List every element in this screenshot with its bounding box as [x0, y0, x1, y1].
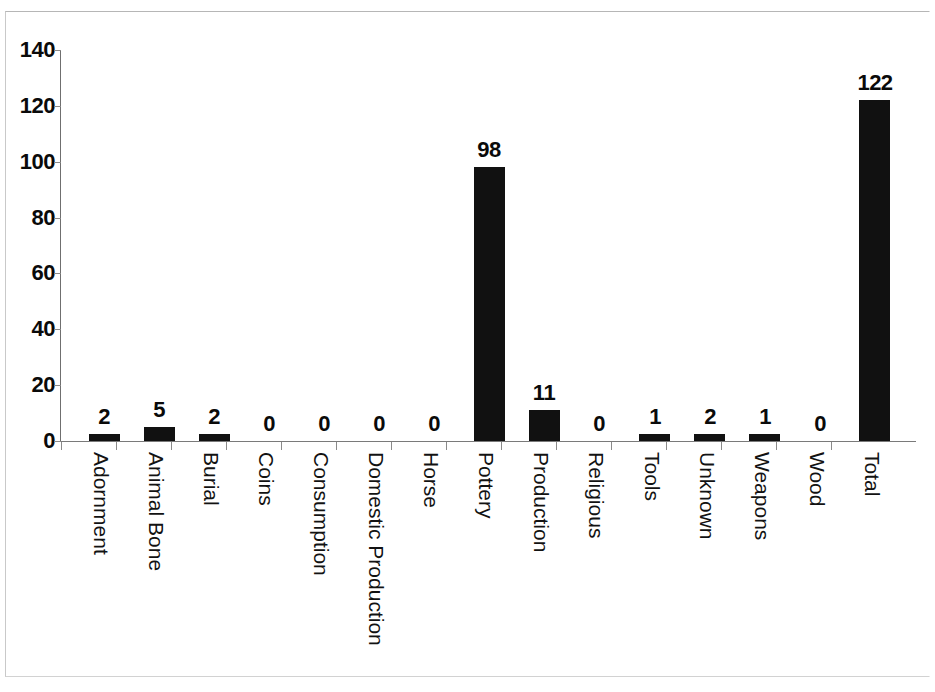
bar-value-label: 98 [461, 139, 517, 161]
x-axis-category-label: Horse [421, 452, 442, 508]
bar [694, 434, 725, 441]
x-axis-tick-mark [116, 442, 117, 450]
y-axis-tick-label: 0 [3, 430, 55, 452]
x-axis-category-label: Religious [586, 452, 607, 538]
x-axis-category-label: Total [862, 452, 883, 496]
bar [144, 427, 175, 441]
bar-value-label: 5 [131, 399, 187, 421]
bar-value-label: 2 [682, 406, 738, 428]
y-axis-tick-label: 60 [3, 262, 55, 284]
y-axis-tick-mark [54, 162, 61, 163]
x-axis-category-label: Consumption [311, 452, 332, 576]
bar-value-label: 1 [737, 406, 793, 428]
y-axis-tick-label: 20 [3, 374, 55, 396]
y-axis-tick-label: 120 [3, 95, 55, 117]
bar [529, 410, 560, 441]
x-axis-line [60, 441, 916, 442]
y-axis: 020406080100120140 [0, 0, 55, 692]
x-axis-tick-mark [611, 442, 612, 450]
bar-value-label: 0 [351, 413, 407, 435]
x-axis-category-label: Coins [256, 452, 277, 506]
bar-value-label: 0 [571, 413, 627, 435]
x-axis-tick-mark [776, 442, 777, 450]
x-axis-category-label: Animal Bone [146, 452, 167, 571]
bar-value-label: 122 [847, 72, 903, 94]
bar-chart: 020406080100120140 2520000981101210122 A… [0, 0, 935, 692]
y-axis-line [60, 50, 61, 442]
x-axis-category-label: Production [531, 452, 552, 552]
x-axis-tick-mark [556, 442, 557, 450]
bar [749, 434, 780, 441]
y-axis-tick-mark [54, 441, 61, 442]
x-axis-tick-mark [226, 442, 227, 450]
bar-value-label: 1 [627, 406, 683, 428]
bar-value-label: 2 [76, 406, 132, 428]
x-axis-tick-mark [666, 442, 667, 450]
bar [859, 100, 890, 441]
bar-value-label: 2 [186, 406, 242, 428]
x-axis-category-label: Burial [201, 452, 222, 506]
y-axis-tick-label: 80 [3, 207, 55, 229]
x-axis-tick-mark [721, 442, 722, 450]
y-axis-tick-label: 40 [3, 318, 55, 340]
x-axis-category-label: Tools [642, 452, 663, 501]
x-axis-tick-mark [831, 442, 832, 450]
y-axis-tick-label: 140 [3, 39, 55, 61]
x-axis-tick-mark [61, 442, 62, 450]
x-axis-tick-mark [281, 442, 282, 450]
y-axis-tick-label: 100 [3, 151, 55, 173]
bar [639, 434, 670, 441]
bar-value-label: 0 [792, 413, 848, 435]
y-axis-tick-mark [54, 50, 61, 51]
bar-value-label: 11 [516, 382, 572, 404]
x-axis-category-label: Domestic Production [366, 452, 387, 646]
y-axis-tick-mark [54, 385, 61, 386]
y-axis-tick-mark [54, 106, 61, 107]
y-axis-tick-mark [54, 329, 61, 330]
x-axis-tick-mark [336, 442, 337, 450]
x-axis-category-label: Weapons [752, 452, 773, 540]
x-axis-tick-mark [446, 442, 447, 450]
x-axis-category-label: Unknown [697, 452, 718, 540]
bar-value-label: 0 [296, 413, 352, 435]
x-axis-tick-mark [391, 442, 392, 450]
bar [199, 434, 230, 441]
x-axis-tick-mark [501, 442, 502, 450]
bar [89, 434, 120, 441]
x-axis-category-label: Wood [807, 452, 828, 506]
bar [474, 167, 505, 441]
y-axis-tick-mark [54, 218, 61, 219]
y-axis-tick-mark [54, 273, 61, 274]
bar-value-label: 0 [241, 413, 297, 435]
x-axis-category-label: Adornment [91, 452, 112, 555]
x-axis-category-label: Pottery [476, 452, 497, 519]
x-axis-tick-mark [171, 442, 172, 450]
bar-value-label: 0 [406, 413, 462, 435]
